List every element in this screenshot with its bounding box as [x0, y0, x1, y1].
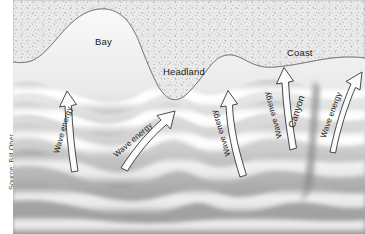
label-bay: Bay [95, 36, 112, 47]
wave-refraction-figure: Source: Bill Ober [0, 0, 365, 234]
label-headland: Headland [163, 66, 205, 77]
label-coast: Coast [287, 47, 313, 58]
